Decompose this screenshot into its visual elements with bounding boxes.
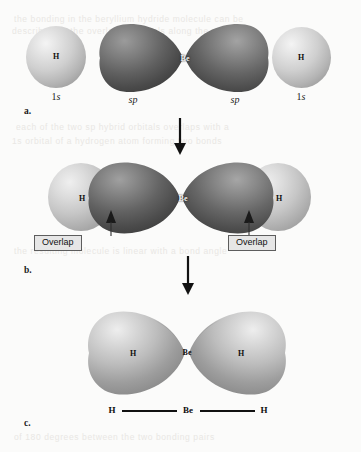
structural-formula: H Be H: [0, 400, 361, 420]
atom-label-h: H: [130, 349, 136, 358]
panel-a: a. H 11ss: [0, 0, 361, 125]
atom-label-h: H: [238, 349, 244, 358]
panel-b-letter: b.: [24, 265, 32, 275]
atom-label-be: Be: [181, 54, 190, 63]
panel-c: H Be H H Be H c.: [0, 300, 361, 452]
atom-label-h: H: [53, 52, 59, 61]
overlap-marker-left-icon: [104, 210, 118, 236]
panel-a-letter: a.: [24, 106, 31, 116]
orbital-label-sp-right: sp: [231, 94, 240, 105]
formula-bond-left: [122, 410, 177, 412]
orbital-label-1s-right: 1s: [297, 91, 306, 102]
arrow-a-to-b: [170, 118, 190, 156]
panel-c-letter: c.: [24, 418, 31, 428]
panel-b: H Be H Overlap Overlap b.: [0, 155, 361, 260]
orbital-label-1s-left: 11ss: [52, 91, 61, 102]
figure-canvas: the bonding in the beryllium hydride mol…: [0, 0, 361, 452]
overlap-callout-right: Overlap: [228, 235, 276, 251]
formula-atom-h-left: H: [108, 405, 115, 415]
atom-label-be: Be: [179, 194, 188, 203]
atom-label-h: H: [298, 53, 304, 62]
overlap-marker-right-icon: [242, 210, 256, 236]
formula-bond-right: [200, 410, 255, 412]
formula-atom-h-right: H: [260, 405, 267, 415]
formula-atom-be: Be: [183, 405, 193, 415]
atom-label-h: H: [79, 194, 85, 203]
atom-label-h: H: [276, 194, 282, 203]
overlap-callout-left: Overlap: [34, 235, 82, 251]
orbital-label-sp-left: sp: [129, 94, 138, 105]
arrow-b-to-c: [178, 256, 198, 296]
atom-label-be: Be: [183, 348, 192, 357]
